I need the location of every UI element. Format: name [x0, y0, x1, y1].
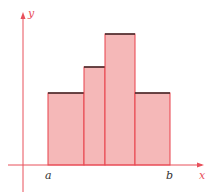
- y-axis-label: y: [27, 7, 35, 20]
- bar-3: [105, 34, 135, 165]
- interval-start-label: a: [45, 169, 52, 182]
- bars-group: [48, 34, 170, 165]
- x-axis-arrow-icon: [197, 163, 204, 168]
- histogram-figure: y x a b: [0, 0, 211, 196]
- bar-1: [48, 93, 84, 165]
- y-axis-arrow-icon: [21, 12, 26, 19]
- bar-4: [135, 93, 170, 165]
- bar-2: [84, 67, 105, 165]
- interval-end-label: b: [166, 169, 173, 182]
- x-axis-label: x: [199, 169, 206, 182]
